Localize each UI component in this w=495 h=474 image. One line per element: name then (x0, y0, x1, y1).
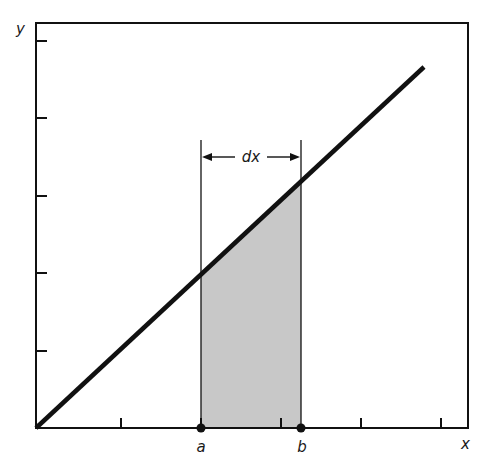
y-axis-label: y (15, 20, 26, 38)
point-b-label: b (297, 438, 307, 456)
dx-label: dx (242, 148, 261, 166)
shaded-area-strip (201, 181, 301, 428)
point-a-marker (197, 424, 206, 433)
point-b-marker (297, 424, 306, 433)
y-axis-ticks (36, 41, 47, 351)
point-a-label: a (196, 438, 205, 456)
dx-arrow-left-head-icon (202, 153, 212, 161)
x-axis-label: x (460, 435, 470, 453)
x-axis-ticks (121, 418, 441, 428)
area-under-line-diagram: y x a b dx (0, 0, 495, 474)
dx-arrow-right-head-icon (290, 153, 300, 161)
